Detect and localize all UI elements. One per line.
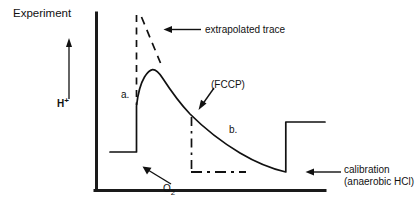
y-axis-label: H+ [57, 96, 69, 110]
calibration-annotation: calibration(anaerobic HCl) [344, 164, 414, 187]
phase-a-annotation: a. [121, 89, 129, 101]
extrapolated-trace-annotation: extrapolated trace [205, 24, 285, 36]
oxygen-subscript: 2 [171, 188, 175, 197]
figure-title: Experiment [13, 7, 71, 20]
oxygen-annotation: O2 [163, 183, 175, 197]
calibration-annotation-line-2: (anaerobic HCl) [344, 176, 414, 188]
fccp-annotation: (FCCP) [211, 79, 245, 91]
phase-b-annotation: b. [229, 124, 237, 136]
y-axis-label-superscript: + [64, 96, 69, 105]
calibration-annotation-line-1: calibration [344, 164, 414, 176]
